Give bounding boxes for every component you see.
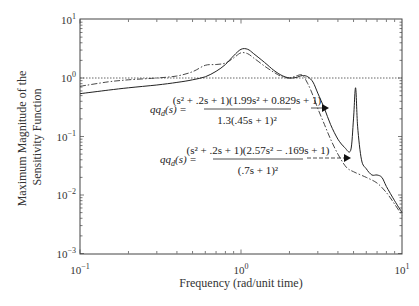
x-tick-label: 100 [234,262,249,276]
plot-area [80,19,402,254]
y-axis-tick-labels: 10110010−110−210−3 [56,12,76,260]
y-axis-title: Maximum Magnitude of the Sensitivity Fun… [15,68,44,207]
y-axis-ticks [80,22,402,253]
y-tick-label: 10−3 [56,246,76,260]
eq2-numerator: (s² + .2s + 1)(2.57s² − .169s + 1) [187,144,330,157]
x-tick-label: 10−1 [70,262,90,276]
eq1-denominator: 1.3(.45s + 1)² [217,114,277,127]
y-tick-label: 101 [61,12,76,26]
eq1-numerator: (s² + .2s + 1)(1.99s² + 0.829s + 1) [173,94,322,107]
eq2-denominator: (.7s + 1)² [238,164,279,177]
series-dashdot-curve [80,53,402,216]
y-axis-title-line2: Sensitivity Function [30,88,44,185]
y-tick-label: 100 [61,70,76,84]
y-axis-title-line1: Maximum Magnitude of the [15,71,29,207]
y-tick-label: 10−2 [56,187,76,201]
equation-annotation-1: qqd(s) = (s² + .2s + 1)(1.99s² + 0.829s … [150,94,329,127]
x-tick-label: 101 [395,262,410,276]
eq2-arrow-head-icon [344,154,351,162]
x-axis-title: Frequency (rad/unit time) [179,276,302,290]
sensitivity-chart: 10−1100101 10110010−110−210−3 Frequency … [0,0,419,306]
series-solid-curve [80,49,402,213]
y-tick-label: 10−1 [56,129,76,143]
x-axis-tick-labels: 10−1100101 [70,262,409,276]
equation-annotation-2: qqd(s) = (s² + .2s + 1)(2.57s² − .169s +… [160,144,351,177]
